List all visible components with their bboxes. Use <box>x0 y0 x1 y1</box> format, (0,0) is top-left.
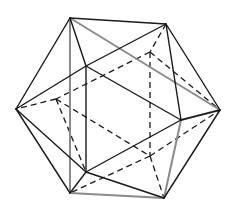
edge-A-B <box>70 18 166 24</box>
gray-edge-F2-BR <box>164 120 181 198</box>
hidden-edge-K3-BL <box>70 156 150 193</box>
hidden-edge-K3-R <box>150 110 220 156</box>
hidden-edge-K1-R <box>150 52 220 110</box>
edge-F3-F2 <box>86 120 181 172</box>
edge-F3-BL <box>70 172 86 193</box>
edge-R-BR <box>164 110 220 198</box>
edge-A-L <box>16 18 70 109</box>
edge-L-F1 <box>16 66 86 109</box>
gray-edge-A-R <box>70 18 220 110</box>
highlighted-edges <box>70 18 220 198</box>
edge-B-R <box>166 24 220 110</box>
hidden-edges <box>16 24 220 198</box>
edge-B-F2 <box>166 24 181 120</box>
edge-F1-F2 <box>86 66 181 120</box>
icosahedron-diagram <box>0 0 232 209</box>
hidden-edge-K3-BR <box>150 156 164 198</box>
hidden-edge-K2-L <box>16 99 56 109</box>
